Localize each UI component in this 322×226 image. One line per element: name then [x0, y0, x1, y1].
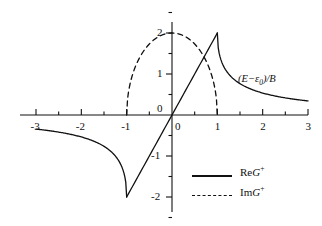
y-tick-label: 1	[157, 68, 163, 79]
legend-label-superscript: +	[260, 184, 264, 193]
legend-label-symbol: G	[252, 186, 260, 198]
x-tick-label: -1	[121, 121, 130, 132]
legend-item: ReG+	[192, 166, 296, 186]
x-axis-label-tail: )/B	[263, 73, 276, 84]
x-tick-label: -2	[76, 121, 85, 132]
legend-label-prefix: Im	[240, 186, 252, 198]
x-tick-label: 0	[175, 121, 181, 132]
series-line-reG	[36, 129, 127, 197]
x-tick-label: 1	[215, 121, 221, 132]
y-tick-label: -1	[151, 150, 160, 161]
x-axis-label-open: (E	[238, 73, 248, 84]
legend-solid-line-sample	[192, 175, 232, 177]
legend: ReG+ImG+	[192, 166, 296, 212]
legend-label-superscript: +	[260, 164, 264, 173]
legend-label-symbol: G	[252, 166, 260, 178]
legend-label: ReG+	[240, 167, 264, 178]
x-axis-label-minus: −	[248, 73, 255, 84]
x-tick-label: 3	[306, 121, 312, 132]
y-tick-label: 2	[157, 27, 163, 38]
legend-item: ImG+	[192, 186, 296, 206]
y-tick-label: -2	[151, 191, 160, 202]
legend-label: ImG+	[240, 187, 264, 198]
legend-label-prefix: Re	[240, 166, 252, 178]
series-line-reG	[217, 33, 308, 101]
y-tick-label: 0	[157, 103, 163, 114]
legend-dashed-line-sample	[192, 195, 232, 196]
x-tick-label: 2	[260, 121, 266, 132]
x-tick-label: -3	[31, 121, 40, 132]
green-function-plot-figure: -3-2-10123 210-1-2 (E−ε0)/B ReG+ImG+	[0, 0, 322, 226]
x-axis-label: (E−ε0)/B	[238, 74, 276, 85]
